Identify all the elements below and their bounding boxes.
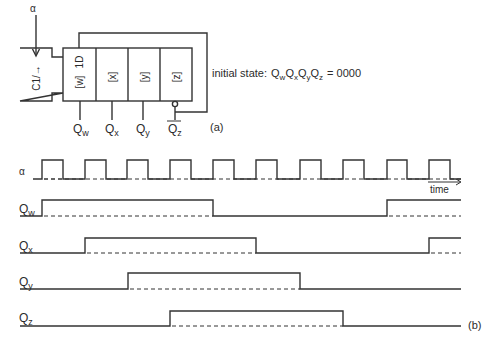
signal-label-clock: α [19, 166, 25, 177]
output-qy-label: Qy [136, 122, 150, 138]
cell-y-label: [y] [139, 72, 150, 83]
signal-label-qw: Qw [19, 202, 35, 218]
output-qz-bar-label: Qz [168, 122, 182, 138]
qz-waveform [20, 311, 461, 326]
inversion-bubble-icon [172, 101, 177, 106]
d-input-label: 1D [74, 56, 85, 69]
signal-label-qz: Qz [19, 311, 33, 327]
output-qx-label: Qx [105, 122, 119, 138]
clock-label: α [30, 3, 36, 14]
part-b-label: (b) [468, 319, 481, 331]
signal-label-qy: Qy [19, 275, 33, 291]
initial-state-text: initial state:QwQxQyQz= 0000 [212, 67, 361, 82]
clock-waveform [33, 160, 461, 179]
qx-waveform [20, 238, 461, 253]
signal-label-qx: Qx [19, 239, 33, 255]
output-qw-label: Qw [73, 122, 89, 138]
cell-w-label: [w] [74, 75, 85, 88]
cell-x-label: [x] [107, 72, 118, 83]
time-label: time [430, 184, 449, 195]
qw-waveform [20, 200, 461, 216]
cell-z-label: [z] [171, 72, 182, 83]
control-label: C1/→ [31, 65, 42, 91]
part-a-label: (a) [210, 121, 223, 133]
qy-waveform [20, 273, 461, 289]
johnson-counter-figure: α C1/→ 1D [w] [x] [y] [z] Qw Qx Qy Qz (a… [0, 0, 496, 342]
